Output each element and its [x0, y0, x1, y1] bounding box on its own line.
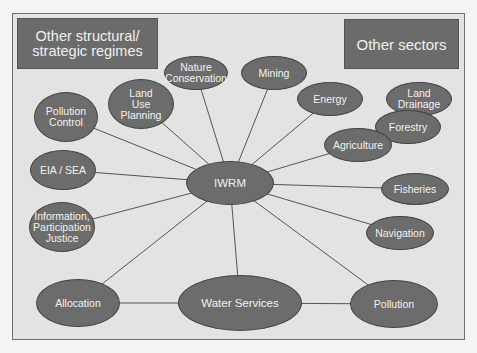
other-sectors-box: Other sectors	[344, 19, 459, 69]
node-mining: Mining	[241, 56, 307, 90]
other-structural-regimes-box: Other structural/ strategic regimes	[17, 18, 158, 69]
node-agriculture: Agriculture	[324, 128, 392, 162]
node-energy: Energy	[297, 82, 363, 116]
node-allocation: Allocation	[36, 279, 120, 327]
node-eia-sea: EIA / SEA	[30, 150, 96, 190]
node-fisheries: Fisheries	[381, 173, 449, 205]
node-information-participation-justice: Information, Participation Justice	[29, 202, 95, 252]
node-nature-conservation: Nature Conservation	[164, 56, 228, 90]
node-land-use-planning: Land Use Planning	[108, 79, 174, 129]
node-water-services: Water Services	[178, 275, 302, 331]
node-navigation: Navigation	[366, 216, 434, 250]
node-pollution: Pollution	[350, 280, 438, 328]
node-iwrm: IWRM	[186, 161, 274, 205]
node-pollution-control: Pollution Control	[34, 92, 98, 142]
